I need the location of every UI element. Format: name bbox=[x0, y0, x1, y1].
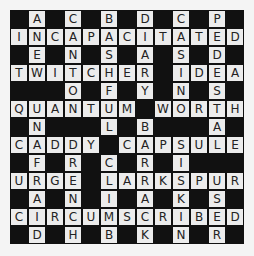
letter-cell[interactable]: D bbox=[64, 136, 82, 154]
letter-cell[interactable]: H bbox=[100, 64, 118, 82]
letter-cell[interactable]: U bbox=[28, 100, 46, 118]
letter-cell[interactable]: S bbox=[172, 136, 190, 154]
letter-cell[interactable]: Y bbox=[82, 136, 100, 154]
letter-cell[interactable]: P bbox=[82, 28, 100, 46]
letter-cell[interactable]: U bbox=[82, 208, 100, 226]
letter-cell[interactable]: R bbox=[136, 64, 154, 82]
letter-cell[interactable]: F bbox=[100, 82, 118, 100]
letter-cell[interactable]: B bbox=[136, 118, 154, 136]
letter-cell[interactable]: C bbox=[10, 136, 28, 154]
letter-cell[interactable]: C bbox=[64, 10, 82, 28]
letter-cell[interactable]: N bbox=[28, 118, 46, 136]
letter-cell[interactable]: G bbox=[46, 172, 64, 190]
letter-cell[interactable]: C bbox=[64, 208, 82, 226]
letter-cell[interactable]: C bbox=[118, 136, 136, 154]
letter-cell[interactable]: I bbox=[172, 154, 190, 172]
letter-cell[interactable]: L bbox=[100, 118, 118, 136]
letter-cell[interactable]: Y bbox=[136, 82, 154, 100]
letter-cell[interactable]: A bbox=[28, 190, 46, 208]
letter-cell[interactable]: T bbox=[154, 28, 172, 46]
letter-cell[interactable]: N bbox=[64, 190, 82, 208]
letter-cell[interactable]: A bbox=[172, 28, 190, 46]
letter-cell[interactable]: R bbox=[46, 208, 64, 226]
letter-cell[interactable]: A bbox=[28, 136, 46, 154]
letter-cell[interactable]: A bbox=[136, 46, 154, 64]
letter-cell[interactable]: B bbox=[190, 208, 208, 226]
letter-cell[interactable]: R bbox=[154, 208, 172, 226]
letter-cell[interactable]: S bbox=[118, 208, 136, 226]
letter-cell[interactable]: R bbox=[208, 226, 226, 244]
letter-cell[interactable]: W bbox=[154, 100, 172, 118]
letter-cell[interactable]: A bbox=[46, 100, 64, 118]
letter-cell[interactable]: P bbox=[190, 172, 208, 190]
letter-cell[interactable]: S bbox=[172, 46, 190, 64]
letter-cell[interactable]: N bbox=[64, 46, 82, 64]
letter-cell[interactable]: A bbox=[208, 118, 226, 136]
letter-cell[interactable]: C bbox=[100, 154, 118, 172]
letter-cell[interactable]: E bbox=[208, 64, 226, 82]
letter-cell[interactable]: C bbox=[82, 64, 100, 82]
letter-cell[interactable]: D bbox=[28, 226, 46, 244]
letter-cell[interactable]: S bbox=[100, 46, 118, 64]
letter-cell[interactable]: I bbox=[172, 208, 190, 226]
letter-cell[interactable]: E bbox=[118, 64, 136, 82]
letter-cell[interactable]: K bbox=[172, 190, 190, 208]
letter-cell[interactable]: A bbox=[28, 10, 46, 28]
letter-cell[interactable]: S bbox=[208, 190, 226, 208]
letter-cell[interactable]: S bbox=[208, 82, 226, 100]
letter-cell[interactable]: T bbox=[64, 64, 82, 82]
letter-cell[interactable]: I bbox=[100, 190, 118, 208]
letter-cell[interactable]: T bbox=[82, 100, 100, 118]
letter-cell[interactable]: D bbox=[136, 10, 154, 28]
letter-cell[interactable]: S bbox=[172, 172, 190, 190]
letter-cell[interactable]: N bbox=[172, 82, 190, 100]
letter-cell[interactable]: O bbox=[64, 82, 82, 100]
letter-cell[interactable]: D bbox=[208, 46, 226, 64]
letter-cell[interactable]: R bbox=[190, 100, 208, 118]
letter-cell[interactable]: A bbox=[136, 136, 154, 154]
letter-cell[interactable]: T bbox=[190, 28, 208, 46]
letter-cell[interactable]: L bbox=[100, 172, 118, 190]
letter-cell[interactable]: N bbox=[172, 226, 190, 244]
letter-cell[interactable]: N bbox=[64, 100, 82, 118]
letter-cell[interactable]: K bbox=[154, 172, 172, 190]
letter-cell[interactable]: R bbox=[28, 172, 46, 190]
letter-cell[interactable]: H bbox=[64, 226, 82, 244]
letter-cell[interactable]: A bbox=[136, 190, 154, 208]
letter-cell[interactable]: E bbox=[64, 172, 82, 190]
letter-cell[interactable]: M bbox=[100, 208, 118, 226]
letter-cell[interactable]: U bbox=[100, 100, 118, 118]
letter-cell[interactable]: U bbox=[10, 172, 28, 190]
letter-cell[interactable]: C bbox=[136, 208, 154, 226]
letter-cell[interactable]: A bbox=[226, 64, 244, 82]
letter-cell[interactable]: C bbox=[172, 10, 190, 28]
letter-cell[interactable]: D bbox=[226, 208, 244, 226]
letter-cell[interactable]: E bbox=[28, 46, 46, 64]
letter-cell[interactable]: C bbox=[46, 28, 64, 46]
letter-cell[interactable]: O bbox=[172, 100, 190, 118]
letter-cell[interactable]: T bbox=[208, 100, 226, 118]
letter-cell[interactable]: E bbox=[208, 208, 226, 226]
letter-cell[interactable]: D bbox=[226, 28, 244, 46]
letter-cell[interactable]: I bbox=[28, 208, 46, 226]
letter-cell[interactable]: W bbox=[28, 64, 46, 82]
letter-cell[interactable]: M bbox=[118, 100, 136, 118]
letter-cell[interactable]: T bbox=[10, 64, 28, 82]
letter-cell[interactable]: A bbox=[118, 172, 136, 190]
letter-cell[interactable]: D bbox=[190, 64, 208, 82]
letter-cell[interactable]: Q bbox=[10, 100, 28, 118]
letter-cell[interactable]: B bbox=[100, 226, 118, 244]
letter-cell[interactable]: U bbox=[190, 136, 208, 154]
letter-cell[interactable]: A bbox=[100, 28, 118, 46]
letter-cell[interactable]: R bbox=[136, 154, 154, 172]
letter-cell[interactable]: A bbox=[64, 28, 82, 46]
letter-cell[interactable]: K bbox=[136, 226, 154, 244]
letter-cell[interactable]: B bbox=[100, 10, 118, 28]
letter-cell[interactable]: R bbox=[64, 154, 82, 172]
letter-cell[interactable]: I bbox=[10, 28, 28, 46]
letter-cell[interactable]: U bbox=[208, 172, 226, 190]
letter-cell[interactable]: I bbox=[136, 28, 154, 46]
letter-cell[interactable]: C bbox=[118, 28, 136, 46]
letter-cell[interactable]: F bbox=[28, 154, 46, 172]
letter-cell[interactable]: P bbox=[208, 10, 226, 28]
